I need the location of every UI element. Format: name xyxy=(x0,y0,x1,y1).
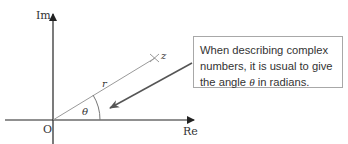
point-z-marker xyxy=(150,54,159,62)
origin-label: O xyxy=(43,123,52,136)
callout-text-after: in radians. xyxy=(255,76,310,88)
callout-box: When describing complex numbers, it is u… xyxy=(193,36,343,88)
im-axis-label: Im xyxy=(36,9,51,22)
angle-arc xyxy=(93,95,100,120)
modulus-line xyxy=(53,58,155,120)
re-axis-label: Re xyxy=(183,125,198,138)
callout-arrow xyxy=(110,63,192,108)
theta-label: θ xyxy=(82,106,88,117)
z-label: z xyxy=(160,50,167,61)
